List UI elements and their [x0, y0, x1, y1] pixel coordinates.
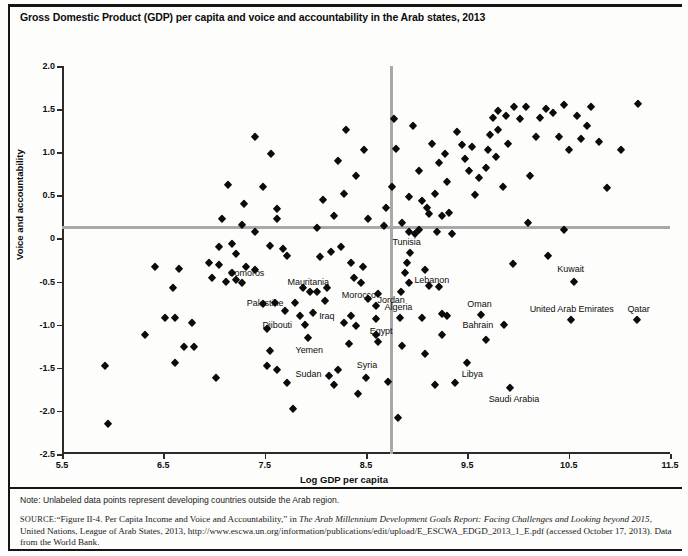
- data-point-label: Bahrain: [462, 320, 493, 330]
- data-point-label: Saudi Arabia: [489, 394, 539, 404]
- data-point: [224, 180, 233, 189]
- data-point: [475, 174, 484, 183]
- data-point: [289, 405, 298, 414]
- data-point: [240, 199, 249, 208]
- data-point: [451, 379, 460, 388]
- y-tick-label: 0.5: [42, 190, 55, 200]
- data-point: [265, 346, 274, 355]
- data-point: [441, 149, 450, 158]
- data-point: [617, 146, 626, 155]
- data-point-labeled: [396, 313, 405, 322]
- data-point: [559, 100, 568, 109]
- x-tick-label: 8.5: [360, 460, 373, 470]
- x-tick-label: 6.5: [157, 460, 170, 470]
- data-point: [329, 211, 338, 220]
- figure-title: Gross Domestic Product (GDP) per capita …: [20, 11, 485, 23]
- data-point-labeled: [356, 279, 365, 288]
- rule-bottom: [8, 549, 682, 551]
- data-point: [141, 330, 150, 339]
- data-point: [572, 111, 581, 120]
- data-point: [272, 215, 281, 224]
- data-point: [564, 146, 573, 155]
- scatter-plot-area: 2.01.51.00.50-0.5-1.0-1.5-2.0-2.5 5.56.5…: [62, 66, 670, 454]
- data-point-label: Libya: [462, 369, 483, 379]
- y-tick-mark: [57, 368, 62, 370]
- data-point: [471, 191, 480, 200]
- data-point: [100, 362, 109, 371]
- x-tick-label: 5.5: [56, 460, 69, 470]
- data-point: [344, 339, 353, 348]
- data-point: [549, 109, 558, 118]
- x-tick-mark: [569, 454, 571, 459]
- data-point-labeled: [476, 311, 485, 320]
- source-tag: SOURCE:: [20, 515, 56, 524]
- data-point: [448, 230, 457, 239]
- data-point: [414, 167, 423, 176]
- data-point: [258, 182, 267, 191]
- data-point: [266, 149, 275, 158]
- data-point: [169, 284, 178, 293]
- y-tick-label: 2.0: [42, 61, 55, 71]
- data-point: [189, 343, 198, 352]
- data-point-label: Qatar: [627, 304, 649, 314]
- data-point: [215, 243, 224, 252]
- x-tick-mark: [366, 454, 368, 459]
- y-tick-mark: [57, 152, 62, 154]
- data-point-label: Sudan: [296, 369, 322, 379]
- data-point: [204, 258, 213, 267]
- data-point: [544, 251, 553, 260]
- y-axis-line: [62, 66, 64, 454]
- data-point-labeled: [420, 266, 429, 275]
- data-point: [483, 146, 492, 155]
- data-point: [488, 113, 497, 122]
- data-point: [536, 113, 545, 122]
- data-point-label: Mauritania: [288, 277, 330, 287]
- data-point: [398, 342, 407, 351]
- reference-line-vertical: [390, 66, 393, 454]
- rule-middle: [8, 487, 682, 489]
- data-point-label: Palestine: [247, 298, 284, 308]
- data-point: [380, 222, 389, 231]
- y-tick-mark: [57, 282, 62, 284]
- data-point-labeled: [304, 333, 313, 342]
- figure-container: Gross Domestic Product (GDP) per capita …: [0, 0, 688, 556]
- data-point-labeled: [566, 316, 575, 325]
- data-point: [174, 264, 183, 273]
- data-point: [333, 156, 342, 165]
- data-point: [458, 141, 467, 150]
- data-point: [358, 262, 367, 271]
- data-point: [363, 215, 372, 224]
- data-point: [336, 243, 345, 252]
- data-point: [465, 167, 474, 176]
- data-point: [491, 152, 500, 161]
- data-point: [532, 132, 541, 141]
- data-point-labeled: [324, 372, 333, 381]
- data-point: [461, 155, 470, 164]
- data-point-labeled: [301, 320, 310, 329]
- y-tick-label: -0.5: [39, 277, 55, 287]
- data-point: [316, 252, 325, 261]
- data-point: [351, 172, 360, 181]
- x-tick-mark: [467, 454, 469, 459]
- data-point-labeled: [463, 358, 472, 367]
- y-tick-label: 1.0: [42, 147, 55, 157]
- x-tick-mark: [62, 454, 64, 459]
- data-point: [493, 106, 502, 115]
- x-tick-label: 9.5: [461, 460, 474, 470]
- data-point: [424, 210, 433, 219]
- data-point: [187, 318, 196, 327]
- data-point: [238, 279, 247, 288]
- data-point-label: Djibouti: [262, 320, 292, 330]
- data-point: [485, 130, 494, 139]
- data-point: [151, 262, 160, 271]
- data-point: [453, 127, 462, 136]
- data-point: [346, 258, 355, 267]
- y-tick-label: 1.5: [42, 104, 55, 114]
- data-point: [576, 135, 585, 144]
- x-tick-label: 7.5: [258, 460, 271, 470]
- data-point: [232, 249, 241, 258]
- source-italic-title: The Arab Millennium Development Goals Re…: [299, 514, 650, 524]
- data-point: [207, 274, 216, 283]
- data-point: [333, 365, 342, 374]
- data-point: [603, 184, 612, 193]
